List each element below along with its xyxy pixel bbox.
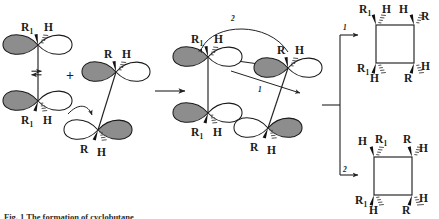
label-h-br-p2: H bbox=[419, 192, 428, 204]
cyclobutane-product-1: R 1 H H R R 1 H R bbox=[357, 3, 430, 84]
wedge-bond-r-tr-p2 bbox=[408, 146, 412, 157]
hash-bond-r1-tl-p2 bbox=[376, 147, 384, 155]
label-h-top-left-ts: H bbox=[214, 33, 223, 45]
electron-flow-curve-reactants bbox=[68, 106, 92, 115]
label-r1-sub-bl-p2: 1 bbox=[364, 200, 368, 209]
label-h-tl-p2: H bbox=[358, 135, 367, 147]
label-h-bl-p2: H bbox=[369, 204, 378, 216]
label-r1-sub-bottom-alkene-1: 1 bbox=[30, 120, 34, 129]
label-h-bottom-right-ts: H bbox=[267, 144, 276, 156]
transition-state: 2 1 R 1 H R 1 H bbox=[173, 14, 322, 156]
label-r-bottom-alkene-2: R bbox=[80, 143, 89, 155]
label-r1-sub-bottom-left-ts: 1 bbox=[200, 132, 204, 141]
reactant-alkene-1: R 1 H R 1 H bbox=[3, 21, 72, 129]
label-h-bottom-alkene-2: H bbox=[97, 146, 106, 158]
label-branch-2: 2 bbox=[342, 165, 347, 174]
p-orbital-top-right-ts bbox=[254, 58, 322, 78]
label-r-top-right-ts: R bbox=[277, 44, 286, 56]
hash-bond-h-tl-p1 bbox=[378, 15, 386, 23]
cyclobutane-product-2: H R 1 R H R 1 H R bbox=[355, 133, 428, 216]
label-h-tl-p1: H bbox=[382, 3, 391, 15]
label-r-top-alkene-2: R bbox=[104, 48, 113, 60]
label-h-top-alkene-2: H bbox=[122, 48, 131, 60]
label-branch-1: 1 bbox=[343, 23, 347, 32]
label-h-top-alkene-1: H bbox=[44, 21, 53, 33]
label-h-br-p1: H bbox=[421, 60, 430, 72]
label-h-top-right-ts: H bbox=[295, 44, 304, 56]
reaction-scheme: R 1 H R 1 H + bbox=[0, 0, 439, 219]
wedge-bond-h-tl-p2 bbox=[370, 146, 374, 157]
figure-caption: Fig. 1 The formation of cyclobutane bbox=[4, 212, 134, 219]
equilibrium-arrow-icon bbox=[32, 71, 42, 75]
label-r1-sub-tl-p1: 1 bbox=[368, 9, 372, 18]
label-r1-sub-top-left-ts: 1 bbox=[200, 39, 204, 48]
reactant-alkene-2: R H R H bbox=[64, 48, 150, 158]
label-r-tr-p2: R bbox=[403, 133, 412, 145]
label-r-tr-p1: R bbox=[421, 10, 430, 22]
label-r-br-p2: R bbox=[402, 204, 411, 216]
label-h-tr-p2: H bbox=[419, 142, 428, 154]
branch-connector: 1 2 bbox=[322, 23, 358, 175]
label-h-tr-p1: H bbox=[399, 3, 408, 15]
label-path-1-ts: 1 bbox=[258, 85, 262, 94]
wedge-bond-h-tr-p1 bbox=[410, 14, 414, 25]
label-r-br-p1: R bbox=[404, 72, 413, 84]
label-r1-sub-top-alkene-1: 1 bbox=[30, 27, 34, 36]
plus-operator: + bbox=[66, 68, 74, 83]
label-h-bottom-left-ts: H bbox=[213, 126, 222, 138]
p-orbital-bottom-alkene-2 bbox=[64, 120, 132, 140]
wedge-bond-r1-tl-p1 bbox=[372, 14, 376, 25]
p-orbital-bottom-right-ts bbox=[234, 118, 302, 138]
hash-bond-h-bl-p1 bbox=[378, 65, 386, 73]
label-r1-sub-tl-p2: 1 bbox=[384, 139, 388, 148]
label-r-bottom-right-ts: R bbox=[250, 141, 259, 153]
label-r1-sub-bl-p1: 1 bbox=[366, 68, 370, 77]
label-path-2-ts: 2 bbox=[230, 14, 235, 23]
label-h-bottom-alkene-1: H bbox=[43, 114, 52, 126]
p-orbital-top-alkene-2 bbox=[82, 62, 150, 82]
label-h-bl-p1: H bbox=[370, 72, 379, 84]
